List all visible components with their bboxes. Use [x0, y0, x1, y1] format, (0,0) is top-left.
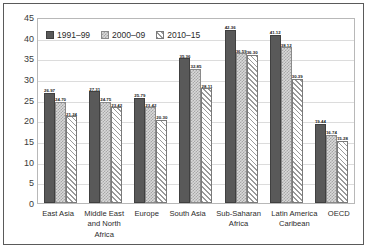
legend-swatch-icon-1 [101, 31, 109, 39]
x-label-oecd: OECD [328, 206, 350, 219]
legend-swatch-icon-2 [156, 31, 164, 39]
y-tick-25: 25 [12, 96, 34, 105]
bar-group: 35.3632.8528.11 [179, 19, 212, 203]
bar-groups: 26.9724.7021.2427.3124.7523.4225.7923.42… [38, 19, 354, 203]
y-tick-20: 20 [12, 117, 34, 126]
bar[interactable]: 35.36 [179, 58, 190, 203]
bar[interactable]: 19.44 [315, 124, 326, 203]
legend-label-1: 2000–09 [112, 30, 145, 40]
bar-value-label: 15.28 [337, 136, 348, 141]
bar[interactable]: 32.85 [190, 69, 201, 203]
bar[interactable]: 16.74 [326, 135, 337, 203]
x-label-europe: Europe [134, 206, 159, 219]
x-label-middle-east-north-africa: Middle Eastand NorthAfrica [84, 206, 124, 240]
bar-chart: 45 40 35 30 25 20 15 10 5 0 26.9724.7021… [4, 4, 363, 244]
legend-item-1[interactable]: 2000–09 [101, 30, 145, 40]
bar-value-label: 38.12 [281, 43, 292, 48]
x-label-latin-america-caribean: Latin AmericaCaribean [271, 206, 317, 230]
bar-value-label: 23.42 [111, 103, 122, 108]
bar-value-label: 19.44 [315, 119, 326, 124]
bar-value-label: 30.39 [292, 74, 303, 79]
bar[interactable]: 27.31 [89, 91, 100, 203]
x-label-sub-saharan-africa: Sub-SaharanAfrica [216, 206, 261, 230]
x-label-east-asia: East Asia [42, 206, 74, 219]
bar-value-label: 16.74 [326, 130, 337, 135]
bar-value-label: 20.30 [156, 115, 167, 120]
bar-group: 19.4416.7415.28 [315, 19, 348, 203]
legend-label-2: 2010–15 [167, 30, 200, 40]
bar-group: 26.9724.7021.24 [44, 19, 77, 203]
bar-group: 42.3636.5936.30 [225, 19, 258, 203]
bar[interactable]: 15.28 [337, 141, 348, 203]
bar-value-label: 24.70 [55, 97, 66, 102]
bar-value-label: 26.97 [44, 88, 55, 93]
bar[interactable]: 21.24 [66, 116, 77, 203]
bar[interactable]: 24.70 [55, 102, 66, 203]
y-tick-35: 35 [12, 55, 34, 64]
bar-value-label: 36.30 [247, 50, 258, 55]
y-axis: 45 40 35 30 25 20 15 10 5 0 [4, 4, 34, 244]
y-tick-45: 45 [12, 14, 34, 23]
plot-area: 26.9724.7021.2427.3124.7523.4225.7923.42… [37, 18, 355, 204]
bar-group: 41.1238.1230.39 [270, 19, 303, 203]
bar-value-label: 24.75 [100, 97, 111, 102]
bar[interactable]: 38.12 [281, 47, 292, 203]
bar[interactable]: 26.97 [44, 93, 55, 203]
bar[interactable]: 36.30 [247, 55, 258, 203]
legend-label-0: 1991–99 [57, 30, 90, 40]
bar[interactable]: 23.42 [111, 107, 122, 203]
x-axis: East Asia Middle Eastand NorthAfrica Eur… [37, 206, 355, 246]
bar[interactable]: 23.42 [145, 107, 156, 203]
bar-value-label: 28.11 [202, 84, 213, 89]
y-tick-15: 15 [12, 138, 34, 147]
y-tick-0: 0 [12, 200, 34, 209]
y-tick-5: 5 [12, 179, 34, 188]
bar[interactable]: 25.79 [134, 98, 145, 203]
bar[interactable]: 28.11 [201, 88, 212, 203]
bar[interactable]: 30.39 [292, 79, 303, 203]
bar-value-label: 32.85 [190, 64, 201, 69]
bar-group: 25.7923.4220.30 [134, 19, 167, 203]
bar-value-label: 35.36 [179, 54, 190, 59]
legend-item-0[interactable]: 1991–99 [46, 30, 90, 40]
bar-group: 27.3124.7523.42 [89, 19, 122, 203]
bar-value-label: 36.59 [236, 49, 247, 54]
chart-frame: 45 40 35 30 25 20 15 10 5 0 26.9724.7021… [3, 3, 364, 245]
bar[interactable]: 41.12 [270, 35, 281, 203]
x-label-south-asia: South Asia [169, 206, 205, 219]
y-tick-30: 30 [12, 76, 34, 85]
bar[interactable]: 24.75 [100, 102, 111, 203]
bar[interactable]: 20.30 [156, 120, 167, 203]
legend-item-2[interactable]: 2010–15 [156, 30, 200, 40]
bar-value-label: 41.12 [270, 30, 281, 35]
y-tick-40: 40 [12, 34, 34, 43]
bar[interactable]: 36.59 [236, 53, 247, 203]
legend: 1991–99 2000–09 2010–15 [46, 30, 200, 40]
bar-value-label: 25.79 [134, 93, 145, 98]
bar-value-label: 21.24 [66, 112, 77, 117]
y-tick-10: 10 [12, 158, 34, 167]
bar-value-label: 23.42 [145, 103, 156, 108]
legend-swatch-icon-0 [46, 31, 54, 39]
bar-value-label: 42.36 [225, 25, 236, 30]
bar-value-label: 27.31 [89, 87, 100, 92]
bar[interactable]: 42.36 [225, 30, 236, 203]
